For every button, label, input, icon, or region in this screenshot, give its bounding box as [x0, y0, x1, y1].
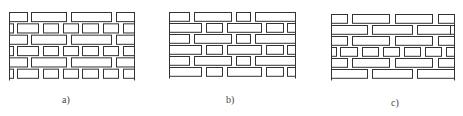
brick: [124, 69, 135, 78]
brick: [237, 57, 251, 66]
brick: [228, 68, 262, 77]
brick: [32, 35, 67, 44]
brick: [288, 24, 296, 33]
brick: [267, 46, 284, 55]
brick: [353, 15, 390, 24]
brick: [332, 26, 368, 35]
brick: [207, 68, 223, 77]
panel-caption-b: b): [226, 94, 234, 105]
brick: [104, 24, 119, 33]
brick: [332, 48, 337, 57]
brick: [117, 35, 135, 44]
brick: [396, 15, 433, 24]
brick: [332, 15, 348, 24]
brick: [170, 13, 190, 22]
brick-panel-a: [9, 12, 135, 81]
brick: [353, 37, 390, 46]
brick: [256, 13, 296, 22]
brick: [207, 24, 223, 33]
brick: [18, 47, 39, 56]
brick: [447, 48, 455, 57]
brick: [256, 35, 296, 44]
brick: [373, 26, 413, 35]
brick: [18, 24, 39, 33]
brick: [32, 58, 67, 67]
brick: [341, 48, 358, 57]
brick: [64, 24, 79, 33]
brick: [44, 69, 59, 78]
brick: [64, 69, 79, 78]
brick-panel-c: [331, 14, 455, 81]
brick: [83, 47, 99, 56]
brick: [170, 57, 190, 66]
brick: [353, 59, 390, 68]
brick: [170, 24, 202, 33]
brick: [256, 57, 296, 66]
brick: [104, 47, 119, 56]
brick: [117, 58, 135, 67]
brick: [104, 69, 119, 78]
brick: [10, 58, 28, 67]
brick: [170, 35, 190, 44]
brick: [170, 68, 202, 77]
brick: [117, 13, 135, 22]
brick: [405, 48, 421, 57]
brick: [10, 69, 14, 78]
brick: [10, 24, 14, 33]
brick: [124, 24, 135, 33]
brick: [18, 69, 39, 78]
brick: [332, 37, 348, 46]
brick: [72, 35, 112, 44]
brick: [439, 59, 455, 68]
brick: [195, 57, 232, 66]
brick: [396, 59, 433, 68]
brick: [72, 58, 112, 67]
brick: [10, 35, 28, 44]
brick: [228, 46, 262, 55]
brick: [195, 13, 232, 22]
brick: [396, 37, 433, 46]
brick: [83, 69, 99, 78]
brick: [439, 15, 455, 24]
brick: [32, 13, 67, 22]
brick: [207, 46, 223, 55]
brick: [10, 13, 28, 22]
brick: [373, 70, 413, 79]
brick: [363, 48, 379, 57]
brick: [332, 70, 368, 79]
brick: [195, 35, 232, 44]
brick: [267, 68, 284, 77]
brick: [44, 24, 59, 33]
brick: [426, 48, 442, 57]
brick: [228, 24, 262, 33]
brick: [237, 13, 251, 22]
brick: [418, 26, 452, 35]
brick: [451, 26, 455, 35]
brick: [332, 59, 348, 68]
brick: [10, 47, 14, 56]
brick: [288, 68, 296, 77]
panel-caption-c: c): [391, 97, 399, 108]
brick: [124, 47, 135, 56]
brick: [170, 46, 202, 55]
brick: [439, 37, 455, 46]
brick: [72, 13, 112, 22]
brick: [64, 47, 79, 56]
brick: [418, 70, 455, 79]
brick: [44, 47, 59, 56]
brick: [267, 24, 284, 33]
brick-panel-b: [169, 12, 296, 79]
panel-caption-a: a): [62, 94, 70, 105]
brick: [384, 48, 400, 57]
brick: [83, 24, 99, 33]
brick: [237, 35, 251, 44]
brick: [288, 46, 296, 55]
